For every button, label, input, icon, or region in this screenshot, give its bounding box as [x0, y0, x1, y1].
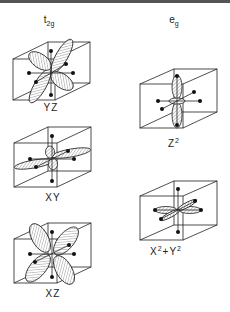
label-z2: Z2	[168, 137, 180, 149]
orbital-x2y2	[155, 189, 201, 232]
group-header-eg: eg	[169, 14, 178, 27]
label-x2y2: X2+Y2	[150, 245, 182, 257]
x2y2-y: Y	[169, 246, 177, 257]
orbital-diagram	[0, 0, 230, 312]
group-header-t2g: t2g	[44, 14, 55, 27]
eg-sub: g	[175, 20, 179, 27]
t2g-sub: 2g	[46, 20, 54, 27]
x2y2-x: X	[150, 246, 158, 257]
label-xy: XY	[45, 192, 60, 203]
label-yz: YZ	[44, 102, 59, 113]
label-xz: XZ	[46, 288, 61, 299]
x2y2-sup-y: 2	[177, 245, 182, 252]
orbital-z2	[158, 75, 200, 128]
z2-sup: 2	[175, 137, 180, 144]
